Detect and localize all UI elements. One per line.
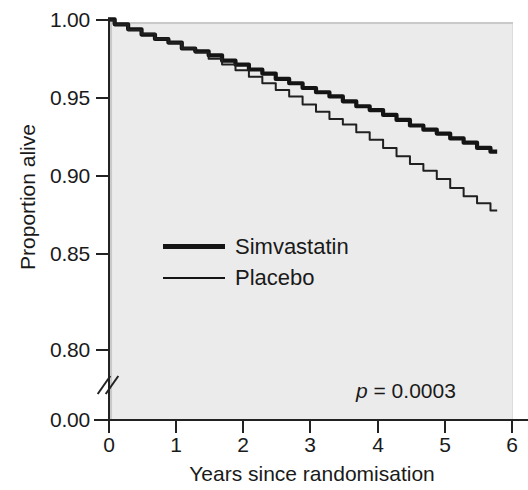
y-label-0-00: 0.00 <box>30 409 90 430</box>
x-tick-2 <box>242 421 244 433</box>
x-label-6: 6 <box>492 434 528 456</box>
x-label-2: 2 <box>223 434 263 456</box>
x-tick-4 <box>377 421 379 433</box>
y-tick-0-95 <box>96 97 109 99</box>
x-tick-3 <box>309 421 311 433</box>
x-tick-1 <box>175 421 177 433</box>
legend-label-placebo: Placebo <box>235 263 315 293</box>
survival-chart-figure: 1.00 0.95 0.90 0.85 0.80 0.00 0 1 2 3 4 … <box>0 0 528 490</box>
x-axis-title: Years since randomisation <box>110 462 514 486</box>
x-axis-line <box>94 419 528 421</box>
y-tick-0-80 <box>96 349 109 351</box>
x-label-4: 4 <box>358 434 398 456</box>
p-value-rest: = 0.0003 <box>368 379 456 402</box>
y-label-1-00: 1.00 <box>30 9 90 30</box>
y-label-0-80: 0.80 <box>30 339 90 360</box>
legend-label-simvastatin: Simvastatin <box>235 232 349 262</box>
y-axis-title: Proportion alive <box>16 87 40 307</box>
x-tick-6 <box>511 421 513 433</box>
x-label-3: 3 <box>290 434 330 456</box>
y-tick-1-00 <box>96 19 109 21</box>
x-label-0: 0 <box>89 434 129 456</box>
y-axis-line <box>108 18 110 422</box>
x-label-5: 5 <box>425 434 465 456</box>
x-tick-5 <box>444 421 446 433</box>
y-tick-0-90 <box>96 175 109 177</box>
plot-area-background <box>110 22 513 420</box>
legend-swatch-simvastatin <box>163 244 225 249</box>
y-axis-break-icon <box>99 372 121 398</box>
p-value-symbol: p <box>356 379 368 402</box>
x-tick-0 <box>108 421 110 433</box>
y-tick-0-85 <box>96 253 109 255</box>
p-value-annotation: p = 0.0003 <box>356 379 456 403</box>
x-label-1: 1 <box>156 434 196 456</box>
legend-swatch-placebo <box>163 277 225 279</box>
